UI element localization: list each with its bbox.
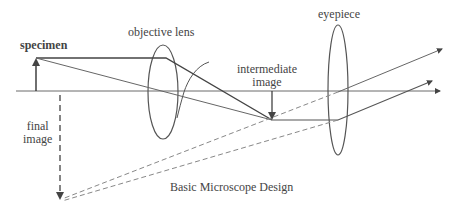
focal-curve [177,62,209,118]
objective-lens-label: objective lens [128,26,194,39]
specimen-label: specimen [20,39,67,52]
eyepiece-lens [328,25,348,155]
intermediate-image-label-line1: intermediate [237,63,297,76]
objective-lens [148,45,178,139]
eyepiece-ray-upper [338,49,442,92]
final-image-label-line2: image [23,133,52,146]
diagram-caption: Basic Microscope Design [170,181,293,194]
intermediate-image-label: intermediate image [237,63,297,88]
intermediate-image-label-line2: image [237,76,297,89]
eyepiece-label: eyepiece [318,8,360,21]
final-image-label-line1: final [23,120,52,133]
final-image-label: final image [23,120,52,145]
